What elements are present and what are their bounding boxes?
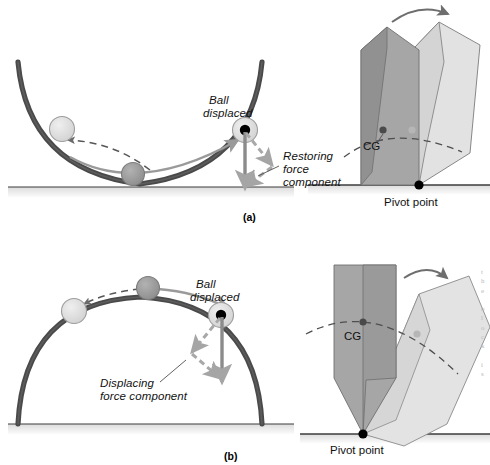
stability-figure: Ball displaced Restoring force component…	[0, 0, 490, 465]
cg-dot-tilted-a	[408, 126, 415, 133]
ball-displaced-label-a-line1: Ball	[209, 94, 229, 107]
displacing-force-label-line2: force component	[100, 390, 187, 403]
ball-displaced-label-b-line2: displaced	[190, 291, 240, 304]
restoring-component-dashed-a	[246, 167, 272, 186]
tip-arrow-a	[392, 10, 448, 23]
ball-light-a	[50, 117, 75, 142]
cg-label-b: CG	[344, 330, 361, 343]
cg-dot-upright-a	[379, 126, 386, 133]
pivot-dot-b	[358, 429, 367, 438]
restoring-force-label-line2: force	[283, 163, 309, 176]
panel-a-block-diagram	[308, 10, 490, 195]
displacing-label-leader-b	[160, 360, 186, 382]
cg-dot-upright-b	[359, 318, 366, 325]
cg-label-a: CG	[363, 140, 380, 153]
panel-tag-a: (a)	[243, 211, 256, 223]
restoring-force-label-line3: component	[283, 176, 341, 189]
panel-b-block-diagram	[300, 265, 490, 446]
ground-band-a	[8, 187, 294, 197]
ball-resting-a	[122, 163, 145, 186]
panel-b-dome-diagram	[8, 277, 294, 435]
ball-displaced-label-a-line2: displaced	[203, 107, 253, 120]
ball-light-b	[62, 299, 87, 324]
tip-arrow-b	[404, 270, 447, 278]
pivot-point-label-a: Pivot point	[384, 196, 438, 209]
pivot-point-label-b: Pivot point	[330, 444, 384, 457]
block-upright-dark-a	[361, 27, 419, 185]
cg-dot-tilted-b	[413, 330, 420, 337]
restoring-force-label-line1: Restoring	[283, 150, 333, 163]
ground-band-b	[8, 424, 294, 434]
restoring-label-leader-a	[258, 166, 279, 176]
displacing-force-label-line1: Displacing	[100, 377, 154, 390]
displacing-component-dashed-b	[192, 354, 220, 378]
ball-top-b	[137, 277, 160, 300]
panel-a-bowl-diagram	[8, 62, 294, 197]
panel-tag-b: (b)	[224, 450, 237, 462]
pivot-dot-a	[414, 180, 423, 189]
ball-displaced-label-b-line1: Ball	[196, 278, 216, 291]
right-edge-margin-text: t h e b l o c k i s	[481, 268, 490, 380]
figure-canvas	[0, 0, 490, 465]
